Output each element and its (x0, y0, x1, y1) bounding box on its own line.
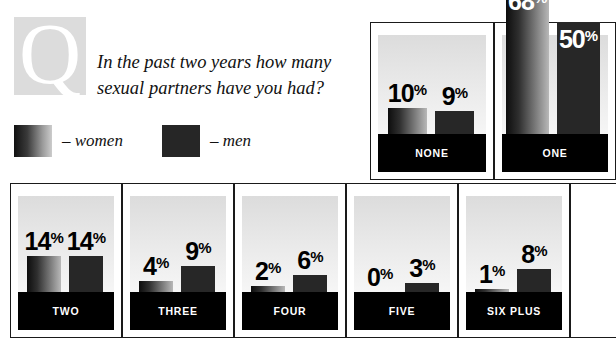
question-mark-badge-icon: Q (14, 17, 86, 95)
chart-cell-five: 0% 3% FIVE (346, 183, 458, 338)
legend-swatch-men-icon (162, 125, 200, 157)
bar-men: 50% (557, 23, 599, 134)
bar-women: 14% (27, 225, 62, 292)
bar-women: 0% (363, 261, 398, 292)
bar-group: 4% 9% (130, 156, 226, 292)
plot-area: 68% 50% ONE (502, 35, 608, 172)
plot-area: 1% 8% SIX PLUS (466, 196, 562, 330)
category-label-four: FOUR (242, 292, 338, 330)
bar-group: 0% 3% (354, 156, 450, 292)
bar-group: 2% 6% (242, 156, 338, 292)
plot-area: 2% 6% FOUR (242, 196, 338, 330)
bar-women: 4% (139, 250, 174, 292)
chart-cell-one: 68% 50% ONE (494, 22, 616, 180)
plot-area: 14% 14% TWO (18, 196, 114, 330)
legend-item-men: – men (162, 122, 251, 160)
plot-area: 10% 9% NONE (378, 35, 486, 172)
bar-women: 68% (506, 0, 548, 134)
bar-value-women: 68% (508, 0, 547, 14)
bar-men: 8% (517, 238, 552, 292)
chart-cell-none: 10% 9% NONE (370, 22, 494, 180)
bar-fill-men (181, 266, 216, 292)
bar-value-men: 6% (297, 244, 323, 273)
bar-fill-women (388, 108, 427, 134)
category-label-none: NONE (378, 134, 486, 172)
bar-value-women: 10% (388, 77, 427, 106)
question-text: In the past two years how many sexual pa… (97, 49, 359, 101)
chart-cell-four: 2% 6% FOUR (234, 183, 346, 338)
bar-value-men: 8% (521, 238, 547, 267)
bar-fill-women (506, 0, 548, 134)
chart-cell-three: 4% 9% THREE (122, 183, 234, 338)
header-block: Q In the past two years how many sexual … (0, 0, 370, 180)
category-label-five: FIVE (354, 292, 450, 330)
bar-group: 1% 8% (466, 156, 562, 292)
category-label-two: TWO (18, 292, 114, 330)
plot-area: 0% 3% FIVE (354, 196, 450, 330)
plot-area: 4% 9% THREE (130, 196, 226, 330)
bar-value-women: 2% (255, 255, 281, 284)
bar-fill-men (69, 256, 104, 292)
bar-women: 10% (388, 77, 427, 134)
bar-value-men: 14% (67, 225, 106, 254)
bar-group: 14% 14% (18, 156, 114, 292)
bar-group: 10% 9% (378, 0, 486, 134)
bar-group: 68% 50% (502, 0, 608, 134)
bar-value-men: 3% (409, 252, 435, 281)
bar-men: 14% (69, 225, 104, 292)
bar-fill-men (435, 111, 474, 134)
bar-value-men: 9% (442, 80, 468, 109)
chart-cell-six-plus: 1% 8% SIX PLUS (458, 183, 570, 338)
legend-label-women: – women (62, 131, 123, 151)
category-label-six-plus: SIX PLUS (466, 292, 562, 330)
category-label-one: ONE (502, 134, 608, 172)
chart-cell-two: 14% 14% TWO (10, 183, 122, 338)
bar-value-women: 14% (25, 225, 64, 254)
legend-label-men: – men (210, 131, 251, 151)
bar-fill-women (139, 281, 174, 292)
bar-women: 2% (251, 255, 286, 292)
bar-value-women: 0% (367, 261, 393, 290)
chart-cell-filler (570, 183, 616, 338)
bar-men: 9% (181, 235, 216, 292)
legend-swatch-women-icon (14, 125, 52, 157)
category-label-three: THREE (130, 292, 226, 330)
bar-value-men: 50% (559, 23, 598, 52)
bar-fill-men (517, 269, 552, 292)
bar-fill-men (293, 275, 328, 292)
bar-value-women: 4% (143, 250, 169, 279)
infographic-page: Q In the past two years how many sexual … (0, 0, 616, 347)
bar-fill-men (405, 283, 440, 292)
bar-value-women: 1% (479, 258, 505, 287)
bar-fill-women (27, 256, 62, 292)
bar-women: 1% (475, 258, 510, 292)
bar-men: 6% (293, 244, 328, 292)
bar-men: 9% (435, 80, 474, 134)
bar-men: 3% (405, 252, 440, 292)
bar-value-men: 9% (185, 235, 211, 264)
legend-item-women: – women (14, 122, 123, 160)
